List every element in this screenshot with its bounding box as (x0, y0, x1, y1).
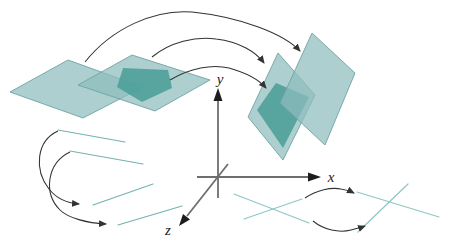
z-axis-arrowhead-icon (179, 214, 190, 226)
left-image-line-2 (118, 206, 182, 225)
right-line-mapping-arrow-lower (313, 221, 365, 231)
right-image-line-ascending (358, 184, 408, 232)
z-axis-label: z (164, 222, 171, 238)
x-axis-arrowhead-icon (308, 173, 321, 182)
y-axis-label: y (215, 71, 224, 87)
left-image-line-1 (93, 184, 153, 205)
left-source-line-2 (70, 151, 143, 164)
right-lines-group (234, 184, 439, 232)
source-planes-group (10, 55, 210, 118)
right-image-line-descending (357, 192, 439, 217)
image-planes-group (248, 33, 355, 160)
left-line-mapping-arrow-1 (39, 131, 79, 204)
x-axis-label: x (327, 169, 335, 185)
left-source-line-1 (58, 130, 125, 142)
figure-canvas: x y z (0, 0, 450, 249)
left-line-mapping-arrow-2 (50, 152, 106, 224)
y-axis-arrowhead-icon (214, 88, 223, 101)
figure-container: x y z (0, 0, 450, 249)
right-line-mapping-arrow-upper (305, 188, 354, 198)
plane-mapping-arrow-outer (85, 12, 300, 62)
z-axis (187, 164, 228, 216)
left-lines-group (39, 130, 182, 225)
plane-mapping-arrow-middle (152, 38, 264, 63)
right-source-line-ascending (244, 199, 302, 219)
